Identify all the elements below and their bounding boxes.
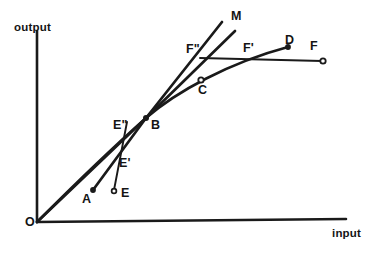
x-axis-label: input: [332, 228, 361, 240]
point-label-a: A: [82, 193, 91, 206]
point-marker-f: [320, 58, 325, 63]
point-label-f-prime: F': [243, 42, 254, 55]
point-label-e-prime: E': [119, 157, 131, 170]
production-curve-line: [37, 47, 288, 222]
point-label-e-double-prime: E": [113, 119, 128, 132]
diagram-canvas: output input O A B C D E E' E" F F' F" M: [0, 0, 383, 258]
point-label-m: M: [231, 10, 242, 23]
point-marker-e: [112, 189, 117, 194]
point-label-f: F: [310, 40, 318, 53]
point-marker-b: [143, 115, 149, 121]
y-axis-label: output: [14, 22, 51, 34]
point-label-b: B: [151, 119, 160, 132]
origin-label: O: [25, 216, 35, 229]
horizontal-segment-f: [200, 58, 322, 61]
diagram-vector-layer: [0, 0, 383, 258]
point-label-e: E: [121, 187, 130, 200]
point-label-f-double-prime: F": [186, 43, 200, 56]
point-label-d: D: [285, 34, 294, 47]
point-label-c: C: [198, 84, 207, 97]
x-axis-line: [37, 219, 346, 222]
point-marker-c: [198, 77, 203, 82]
